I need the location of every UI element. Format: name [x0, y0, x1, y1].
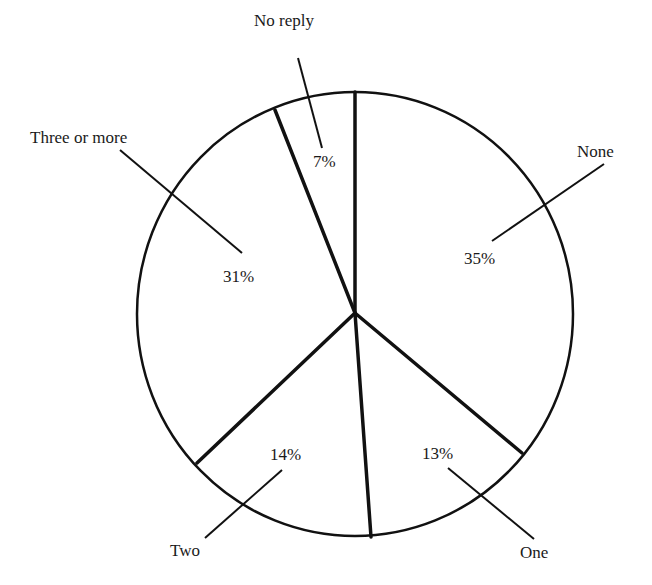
pie-chart: No reply 7% Three or more 31% None 35% 1… — [0, 0, 652, 585]
label-noreply-pct: 7% — [313, 152, 336, 171]
label-three-pct: 31% — [223, 267, 254, 286]
label-three-name: Three or more — [30, 128, 127, 147]
label-two-name: Two — [170, 541, 200, 560]
label-none-name: None — [577, 142, 614, 161]
label-one-name: One — [520, 543, 548, 562]
label-none-pct: 35% — [464, 249, 495, 268]
label-noreply-name: No reply — [254, 11, 314, 30]
label-one-pct: 13% — [422, 444, 453, 463]
label-two-pct: 14% — [270, 445, 301, 464]
